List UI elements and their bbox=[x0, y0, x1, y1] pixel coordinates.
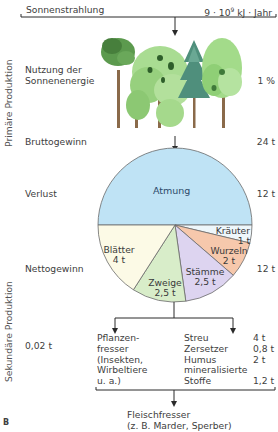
herbivores-block: Pflanzen- fresser (Insekten, Wirbeltiere… bbox=[97, 333, 147, 387]
brutto-label: Bruttogewinn bbox=[25, 136, 87, 147]
netto-value: 12 t bbox=[257, 263, 275, 274]
pie-label-zweige: Zweige 2,5 t bbox=[145, 278, 185, 298]
litter-item-label: Stoffe bbox=[184, 376, 248, 387]
arrow-down-icon bbox=[172, 30, 178, 36]
pie-label-staemme: Stämme 2,5 t bbox=[183, 267, 227, 287]
brutto-value: 24 t bbox=[257, 136, 275, 147]
pie-label-wurzeln: Wurzeln 2 t bbox=[207, 246, 251, 266]
staemme-value: 2,5 t bbox=[183, 277, 227, 287]
pie-label-atmung: Atmung bbox=[153, 186, 190, 196]
verlust-label: Verlust bbox=[25, 188, 57, 199]
carnivores-line2: (z. B. Marder, Sperber) bbox=[127, 421, 232, 432]
figure-letter: B bbox=[3, 417, 9, 428]
input-label: Sonnenstrahlung bbox=[26, 4, 104, 15]
carnivores-block: Fleischfresser (z. B. Marder, Sperber) bbox=[127, 410, 232, 432]
bottom-bracket bbox=[96, 387, 275, 407]
blaetter-value: 4 t bbox=[100, 255, 138, 265]
input-value: 9 · 109 kJ · Jahr bbox=[204, 4, 272, 18]
nutzung-value: 1 % bbox=[258, 75, 276, 86]
input-unit: kJ · Jahr bbox=[234, 7, 272, 18]
litter-item-label: Zersetzer bbox=[184, 344, 248, 355]
wurzeln-value: 2 t bbox=[207, 256, 251, 266]
split-arrows bbox=[115, 302, 233, 330]
litter-values: 4 t 0,8 t 2 t 1,2 t bbox=[253, 333, 274, 387]
arrow-down-icon bbox=[171, 401, 177, 407]
secondary-production-label: Sekundäre Produktion bbox=[3, 281, 14, 382]
zweige-value: 2,5 t bbox=[145, 288, 185, 298]
litter-item-value: 2 t bbox=[253, 355, 274, 366]
input-base: 9 · 10 bbox=[204, 7, 230, 18]
nutzung-label-line1: Nutzung der bbox=[25, 64, 94, 75]
primary-production-label: Primäre Produktion bbox=[3, 59, 14, 147]
nutzung-label-line2: Sonnenenergie bbox=[25, 75, 94, 86]
litter-item-value: 1,2 t bbox=[253, 376, 274, 387]
herbivores-line5: u. a.) bbox=[97, 376, 147, 387]
pie-label-kraeuter: Kräuter 1 t bbox=[208, 226, 250, 246]
nutzung-label: Nutzung der Sonnenenergie bbox=[25, 64, 94, 86]
secondary-value: 0,02 t bbox=[25, 340, 52, 351]
pie-label-blaetter: Blätter 4 t bbox=[100, 245, 138, 265]
litter-item-value: 0,8 t bbox=[253, 344, 274, 355]
forest-illustration bbox=[101, 38, 242, 128]
netto-label: Nettogewinn bbox=[25, 263, 84, 274]
verlust-value: 12 t bbox=[257, 188, 275, 199]
herbivores-line2: fresser bbox=[97, 344, 147, 355]
litter-labels: Streu Zersetzer Humus mineralisierte Sto… bbox=[184, 333, 248, 387]
